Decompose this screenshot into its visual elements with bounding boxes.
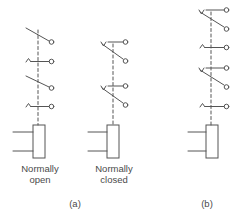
normally-open-relay [13,28,54,158]
relay-coil [33,125,45,158]
label-line: Normally [15,163,65,174]
label-line: open [15,174,65,185]
hooked-contact-icon [200,45,229,50]
hooked-contact-icon [26,104,54,109]
no-contact-open-icon [26,28,54,44]
nc-contact-icon [199,8,229,32]
label-line: closed [89,174,139,185]
no-contact-open-icon [26,76,54,90]
hooked-contact-icon [26,59,54,64]
normally-closed-relay [88,40,128,158]
hooked-contact-icon [200,104,229,109]
nc-contact-icon [101,40,128,64]
caption-b: (b) [195,198,219,209]
caption-a: (a) [63,198,87,209]
nc-contact-icon [199,66,229,90]
relay-coil [206,125,218,158]
nc-contact-icon [101,84,128,108]
label-line: Normally [89,163,139,174]
normally-open-label: Normally open [15,163,65,185]
normally-closed-label: Normally closed [89,163,139,185]
relay-coil [107,125,119,158]
relay-b [188,8,229,158]
